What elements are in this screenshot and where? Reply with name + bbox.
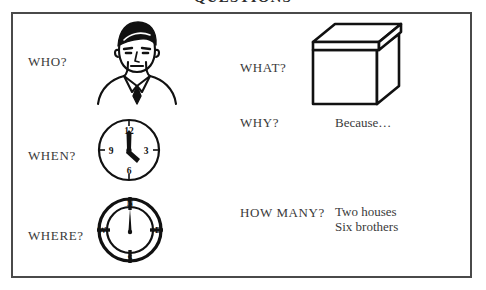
answer-six-brothers: Six brothers xyxy=(335,219,398,235)
svg-text:N: N xyxy=(127,198,134,208)
svg-text:E: E xyxy=(155,225,161,235)
svg-text:6: 6 xyxy=(127,166,132,176)
question-label-where: WHERE? xyxy=(28,228,84,244)
question-label-why: WHY? xyxy=(240,115,279,131)
question-label-how-many: HOW MANY? xyxy=(240,205,325,221)
cardboard-box-icon xyxy=(305,16,407,116)
worksheet-page: QUESTIONS WHO? WHEN? WHERE? WHAT? WHY? H… xyxy=(0,0,486,290)
svg-text:9: 9 xyxy=(109,146,114,156)
answer-two-houses: Two houses xyxy=(335,204,397,220)
svg-text:W: W xyxy=(98,225,107,235)
person-head-icon xyxy=(92,18,182,110)
svg-text:3: 3 xyxy=(144,146,149,156)
question-label-who: WHO? xyxy=(28,54,67,70)
svg-text:S: S xyxy=(127,253,132,263)
analog-clock-icon: 12 3 6 9 xyxy=(96,117,162,187)
question-label-what: WHAT? xyxy=(240,60,286,76)
answer-because: Because… xyxy=(335,115,391,131)
question-label-when: WHEN? xyxy=(28,148,76,164)
compass-icon: N E S W xyxy=(95,194,165,270)
page-title: QUESTIONS xyxy=(0,0,486,6)
